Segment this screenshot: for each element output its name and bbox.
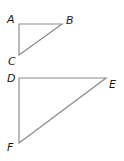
vertex-label-d: D [7, 73, 15, 84]
vertex-label-c: C [8, 56, 16, 67]
vertex-label-e: E [109, 79, 116, 90]
triangle-def [19, 78, 106, 143]
vertex-label-b: B [66, 15, 74, 26]
triangle-abc [19, 24, 62, 55]
triangles-svg [0, 0, 124, 161]
vertex-label-f: F [7, 142, 13, 153]
vertex-label-a: A [7, 14, 15, 25]
triangle-diagram: A B C D E F [0, 0, 124, 161]
